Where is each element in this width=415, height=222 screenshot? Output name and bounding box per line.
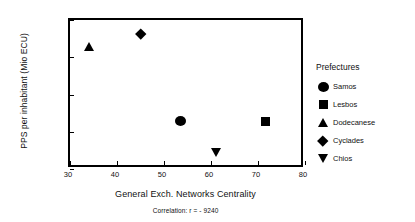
legend-item-dodecanese[interactable]: Dodecanese [316, 115, 415, 130]
x-tick-label: 50 [147, 171, 177, 179]
legend-item-label: Lesbos [333, 100, 357, 109]
marker-glyph [319, 100, 328, 109]
y-tick-mark [70, 20, 74, 21]
x-tick-mark [70, 161, 71, 165]
x-tick-label: 70 [241, 171, 271, 179]
x-tick-mark [211, 161, 212, 165]
legend-item-label: Cyclades [333, 136, 364, 145]
data-point-cyclades[interactable] [135, 29, 146, 40]
legend-item-label: Samos [333, 82, 356, 91]
marker-glyph [318, 82, 329, 92]
correlation-caption: Correlation: r = - 9240 [68, 207, 303, 214]
x-tick-label: 40 [100, 171, 130, 179]
diamond-marker-icon [316, 135, 330, 147]
x-tick-mark [164, 161, 165, 165]
legend: Prefectures SamosLesbosDodecaneseCyclade… [316, 62, 415, 169]
x-axis-title: General Exch. Networks Centrality [68, 189, 303, 199]
triangle-up-marker-icon [316, 117, 330, 129]
x-tick-label: 30 [53, 171, 83, 179]
legend-item-cyclades[interactable]: Cyclades [316, 133, 415, 148]
square-marker-icon [316, 99, 330, 111]
marker-glyph [318, 118, 328, 127]
data-point-samos[interactable] [175, 116, 186, 126]
legend-title: Prefectures [316, 62, 415, 72]
y-axis-title: PPS per inhabitant (Mio ECU) [19, 11, 29, 171]
legend-item-chios[interactable]: Chios [316, 151, 415, 166]
plot-frame [68, 18, 303, 167]
x-tick-mark [258, 161, 259, 165]
y-tick-mark [70, 95, 74, 96]
marker-glyph [318, 135, 329, 146]
legend-item-samos[interactable]: Samos [316, 79, 415, 94]
scatter-chart-figure: PPS per inhabitant (Mio ECU) 60007000800… [0, 0, 415, 222]
legend-item-label: Dodecanese [333, 118, 375, 127]
x-tick-mark [117, 161, 118, 165]
legend-item-list: SamosLesbosDodecaneseCycladesChios [316, 79, 415, 166]
y-tick-mark [70, 132, 74, 133]
circle-marker-icon [316, 81, 330, 93]
x-tick-mark [305, 161, 306, 165]
x-tick-label: 80 [288, 171, 318, 179]
legend-item-label: Chios [333, 154, 352, 163]
triangle-down-marker-icon [316, 153, 330, 165]
marker-glyph [318, 154, 328, 163]
y-tick-mark [70, 57, 74, 58]
data-point-dodecanese[interactable] [84, 42, 94, 51]
legend-item-lesbos[interactable]: Lesbos [316, 97, 415, 112]
x-tick-label: 60 [194, 171, 224, 179]
y-tick-mark [70, 169, 74, 170]
data-point-chios[interactable] [211, 148, 221, 157]
data-point-lesbos[interactable] [261, 117, 270, 126]
plot-area [70, 20, 301, 165]
